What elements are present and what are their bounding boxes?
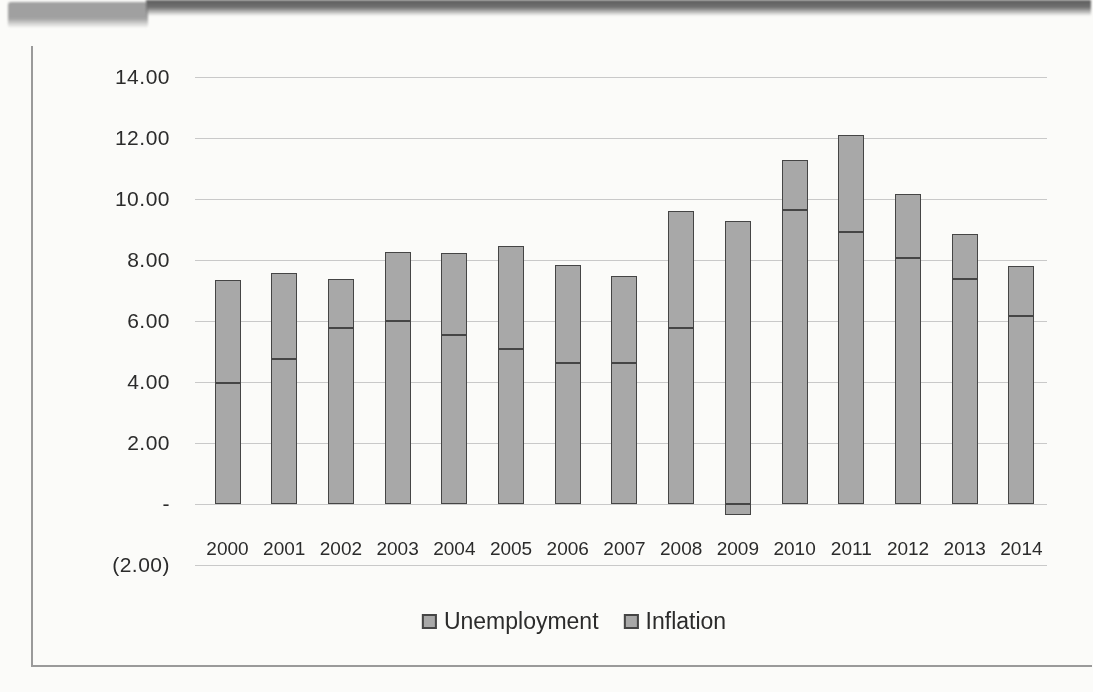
bar-2002-unemployment — [328, 328, 354, 504]
legend-item-inflation: Inflation — [624, 608, 727, 634]
bar-2009-unemployment — [725, 221, 751, 504]
bar-2012-inflation — [895, 194, 921, 257]
legend-swatch-inflation-icon — [624, 614, 639, 629]
bar-2004-inflation — [441, 253, 467, 335]
bar-2011-inflation — [838, 135, 864, 231]
bar-2001-inflation — [271, 273, 297, 359]
y-axis-tick-label: 2.00 — [60, 431, 170, 455]
bar-2003-inflation — [385, 252, 411, 321]
bar-2011-unemployment — [838, 232, 864, 504]
bar-2006-unemployment — [555, 363, 581, 504]
legend-label-inflation: Inflation — [646, 608, 727, 634]
bar-2008-unemployment — [668, 328, 694, 504]
bar-2002-inflation — [328, 279, 354, 327]
bar-2014-unemployment — [1008, 316, 1034, 504]
bar-2000-inflation — [215, 280, 241, 383]
bar-2005-inflation — [498, 246, 524, 349]
bar-2000-unemployment — [215, 383, 241, 504]
bar-2013-inflation — [952, 234, 978, 279]
bar-2009-inflation — [725, 504, 751, 515]
x-axis-year-label: 2002 — [309, 539, 373, 559]
y-axis-tick-label: (2.00) — [60, 553, 170, 577]
x-axis-year-label: 2000 — [196, 539, 260, 559]
bar-2004-unemployment — [441, 335, 467, 504]
legend-label-unemployment: Unemployment — [444, 608, 599, 634]
bar-2006-inflation — [555, 265, 581, 364]
bar-2005-unemployment — [498, 349, 524, 504]
chart-legend: Unemployment Inflation — [422, 608, 726, 634]
y-axis-tick-label: 8.00 — [60, 248, 170, 272]
bar-2012-unemployment — [895, 258, 921, 504]
gridline-14.00 — [195, 77, 1047, 78]
chart-frame: 14.0012.0010.008.006.004.002.00-(2.00)20… — [31, 46, 1092, 667]
bar-2001-unemployment — [271, 359, 297, 504]
x-axis-year-label: 2014 — [989, 539, 1053, 559]
x-axis-year-label: 2001 — [252, 539, 316, 559]
x-axis-year-label: 2011 — [819, 539, 883, 559]
bar-2007-inflation — [611, 276, 637, 363]
y-axis-tick-label: 6.00 — [60, 309, 170, 333]
legend-swatch-unemployment-icon — [422, 614, 437, 629]
gridline-(2.00) — [195, 565, 1047, 566]
gridline-12.00 — [195, 138, 1047, 139]
x-axis-year-label: 2007 — [592, 539, 656, 559]
y-axis-tick-label: - — [60, 492, 170, 516]
x-axis-year-label: 2003 — [366, 539, 430, 559]
bar-2014-inflation — [1008, 266, 1034, 315]
y-axis-tick-label: 10.00 — [60, 187, 170, 211]
x-axis-year-label: 2012 — [876, 539, 940, 559]
x-axis-year-label: 2006 — [536, 539, 600, 559]
x-axis-year-label: 2009 — [706, 539, 770, 559]
bar-2007-unemployment — [611, 363, 637, 504]
x-axis-year-label: 2010 — [763, 539, 827, 559]
bar-2010-inflation — [782, 160, 808, 210]
bar-2010-unemployment — [782, 210, 808, 504]
plot-area: 14.0012.0010.008.006.004.002.00-(2.00)20… — [2, 0, 1093, 692]
y-axis-tick-label: 12.00 — [60, 126, 170, 150]
legend-item-unemployment: Unemployment — [422, 608, 599, 634]
x-axis-year-label: 2013 — [933, 539, 997, 559]
y-axis-tick-label: 4.00 — [60, 370, 170, 394]
bar-2008-inflation — [668, 211, 694, 328]
bar-2003-unemployment — [385, 321, 411, 504]
x-axis-year-label: 2004 — [422, 539, 486, 559]
x-axis-year-label: 2008 — [649, 539, 713, 559]
x-axis-year-label: 2005 — [479, 539, 543, 559]
bar-2013-unemployment — [952, 279, 978, 504]
y-axis-tick-label: 14.00 — [60, 65, 170, 89]
